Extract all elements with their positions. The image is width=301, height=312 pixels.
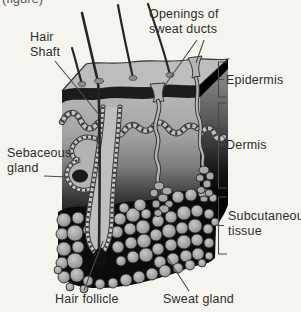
fat-lobule — [70, 268, 84, 282]
fat-lobule — [162, 224, 176, 238]
fat-lobule — [185, 189, 197, 201]
figure-caption-fragment: (figure) — [2, 0, 72, 7]
label-sweat-duct-openings: Openings of sweat ducts — [149, 7, 219, 36]
fat-lobule — [185, 260, 195, 270]
fat-lobule — [127, 251, 139, 263]
fat-lobule — [139, 248, 153, 262]
fat-lobule — [204, 209, 214, 219]
fat-lobule — [191, 234, 203, 246]
label-hair-shaft: Hair Shaft — [30, 30, 60, 59]
fat-lobule — [112, 241, 124, 253]
fat-lobule — [54, 266, 62, 274]
label-dermis: Dermis — [226, 138, 267, 153]
fat-lobule — [119, 203, 129, 213]
fat-lobule — [136, 220, 150, 234]
fat-lobule — [176, 222, 188, 234]
fat-lobule — [137, 234, 151, 248]
fat-lobule — [205, 252, 213, 260]
fat-lobule — [133, 271, 145, 283]
fat-lobule — [172, 191, 184, 203]
fat-lobule — [191, 205, 203, 217]
label-epidermis: Epidermis — [226, 73, 283, 88]
fat-lobule — [134, 199, 146, 211]
fat-lobule — [211, 218, 219, 226]
fat-lobule — [72, 241, 84, 253]
fat-lobule — [67, 225, 83, 241]
fat-lobule — [120, 274, 132, 286]
fat-lobule — [159, 265, 171, 277]
fat-lobule — [198, 259, 206, 267]
fat-lobule — [125, 237, 137, 249]
fat-lobule — [67, 253, 83, 269]
label-hair-follicle: Hair follicle — [55, 292, 119, 307]
fat-lobule — [150, 229, 162, 241]
fat-lobule — [66, 283, 74, 291]
fat-lobule — [57, 242, 71, 256]
label-subcutaneous-tissue: Subcutaneous tissue — [228, 209, 301, 238]
fat-lobule — [95, 279, 105, 289]
fat-lobule — [124, 223, 136, 235]
fat-lobule — [56, 228, 68, 240]
fat-lobule — [177, 235, 191, 249]
label-sebaceous-gland: Sebaceous gland — [7, 146, 71, 175]
fat-lobule — [203, 224, 213, 234]
fat-lobule — [152, 243, 164, 255]
fat-lobule — [116, 256, 126, 266]
fat-lobule — [108, 278, 118, 288]
fat-lobule — [72, 212, 84, 224]
fat-lobule — [192, 248, 204, 260]
fat-lobule — [177, 206, 191, 220]
label-sweat-gland: Sweat gland — [163, 292, 234, 307]
skin-anatomy-diagram: (figure) Hair Shaft Openings of sweat du… — [0, 0, 301, 312]
fat-lobule — [114, 213, 126, 225]
fat-lobule — [165, 239, 177, 251]
fat-lobule — [188, 219, 202, 233]
fat-lobule — [204, 238, 214, 248]
fat-lobule — [146, 268, 158, 280]
fat-lobule — [57, 213, 71, 227]
